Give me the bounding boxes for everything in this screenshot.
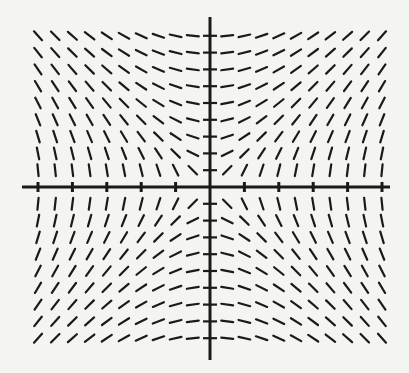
slope-segment: [347, 164, 348, 176]
slope-segment: [345, 232, 349, 243]
slope-segment: [123, 164, 125, 176]
slope-segment: [54, 148, 57, 160]
slope-segment: [123, 198, 125, 210]
slope-segment: [85, 300, 93, 308]
slope-segment: [308, 32, 318, 39]
slope-segment: [187, 270, 199, 272]
slope-segment: [240, 149, 248, 157]
slope-segment: [102, 335, 112, 342]
slope-segment: [256, 285, 267, 290]
slope-segment: [256, 84, 267, 89]
slope-segment: [239, 68, 251, 71]
slope-segment: [344, 300, 352, 309]
slope-segment: [276, 148, 281, 159]
slope-segment: [120, 99, 128, 107]
slope-segment: [139, 148, 144, 159]
slope-segment: [36, 114, 40, 125]
slope-segment: [119, 301, 129, 308]
slope-segment: [379, 283, 385, 293]
slope-segment: [221, 118, 233, 121]
slope-segment: [330, 198, 332, 210]
slope-segment: [380, 249, 384, 260]
slope-segment: [171, 234, 181, 241]
slope-segment: [68, 317, 76, 325]
slope-segment: [53, 232, 57, 243]
slope-segment: [347, 198, 348, 210]
slope-segment: [121, 232, 127, 242]
slope-segment: [346, 148, 349, 160]
slope-segment: [310, 115, 317, 125]
slope-segment: [154, 233, 162, 241]
slope-segment: [136, 336, 147, 341]
slope-segment: [221, 52, 233, 53]
slope-segment: [86, 283, 94, 292]
slope-segment: [312, 198, 314, 210]
slope-segment: [362, 249, 367, 260]
slope-segment: [329, 148, 332, 160]
slope-segment: [136, 284, 146, 291]
slope-segment: [119, 335, 129, 341]
slope-segment: [256, 336, 267, 340]
slope-segment: [273, 336, 284, 341]
slope-segment: [35, 300, 42, 310]
slope-segment: [274, 99, 283, 106]
slope-segment: [55, 198, 56, 210]
slope-segment: [330, 164, 332, 176]
slope-segment: [380, 131, 383, 142]
slope-segment: [105, 215, 109, 226]
slope-segment: [378, 317, 385, 326]
slope-segment: [326, 317, 335, 325]
slope-segment: [222, 236, 233, 240]
slope-segment: [103, 266, 111, 275]
slope-segment: [51, 32, 59, 40]
slope-segment: [312, 164, 314, 176]
slope-segment: [293, 131, 299, 141]
slope-segment: [120, 115, 127, 124]
slope-segment: [187, 85, 199, 87]
slope-segment: [121, 131, 127, 141]
slope-segment: [153, 302, 164, 307]
slope-segment: [104, 232, 109, 243]
slope-segment: [68, 300, 76, 309]
slope-segment: [102, 65, 111, 73]
slope-segment: [170, 101, 181, 105]
slope-segment: [240, 216, 248, 224]
slope-segment: [54, 215, 57, 227]
slope-segment: [170, 84, 181, 88]
slope-segment: [239, 101, 250, 105]
slope-segment: [120, 267, 128, 275]
slope-segment: [153, 285, 164, 290]
slope-segment: [308, 335, 318, 342]
slope-segment: [70, 131, 74, 142]
slope-segment: [291, 49, 301, 55]
slope-segment: [52, 266, 58, 276]
slope-segment: [309, 98, 317, 107]
slope-segment: [171, 133, 181, 140]
slope-segment: [71, 215, 74, 227]
slope-segment: [35, 81, 41, 91]
slope-segment: [239, 133, 249, 140]
slope-segment: [70, 114, 75, 125]
slope-segment: [103, 98, 111, 107]
slope-segment: [311, 232, 316, 243]
slope-segment: [187, 236, 198, 240]
slope-segment: [154, 251, 164, 258]
slope-segment: [102, 49, 112, 56]
slope-segment: [258, 216, 265, 226]
slope-field-diagram: [0, 0, 409, 373]
slope-segment: [170, 337, 182, 340]
slope-segment: [173, 198, 178, 209]
slope-segment: [291, 301, 301, 308]
slope-segment: [309, 266, 317, 275]
slope-segment: [52, 300, 59, 309]
slope-segment: [68, 48, 76, 56]
slope-segment: [36, 232, 39, 243]
slope-segment: [187, 304, 199, 306]
slope-segment: [36, 131, 39, 142]
slope-segment: [311, 148, 315, 159]
slope-segment: [242, 165, 247, 176]
slope-segment: [51, 317, 59, 326]
slope-segment: [52, 98, 58, 108]
slope-segment: [273, 50, 284, 55]
slope-segment: [291, 284, 300, 292]
